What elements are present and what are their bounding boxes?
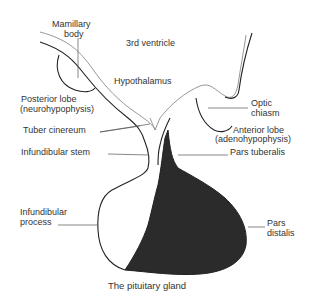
label-optic-chiasm-2: chiasm	[251, 108, 280, 118]
pars-distalis-shape	[125, 130, 246, 275]
label-third-ventricle: 3rd ventricle	[126, 38, 175, 48]
pituitary-gland-diagram: Mamillary body 3rd ventricle Hypothalamu…	[0, 0, 320, 291]
optic-nerve-inner	[225, 33, 252, 98]
label-infundibular-process: Infundibular	[20, 207, 67, 217]
label-pars-tuberalis: Pars tuberalis	[230, 147, 286, 157]
diagram-caption: The pituitary gland	[108, 280, 186, 291]
label-posterior-lobe-2: (neurohypophysis)	[20, 104, 94, 114]
label-posterior-lobe: Posterior lobe	[21, 94, 77, 104]
label-pars-distalis: Pars	[267, 218, 286, 228]
label-optic-chiasm: Optic	[251, 98, 273, 108]
tuber-cinereum-leader-b	[100, 124, 150, 132]
infundibular-stem-leader	[108, 154, 149, 155]
anterior-lobe-outline	[196, 98, 232, 132]
label-infundibular-stem: Infundibular stem	[21, 147, 90, 157]
label-hypothalamus: Hypothalamus	[114, 76, 172, 86]
label-mamillary-body: Mamillary	[52, 19, 91, 29]
label-pars-distalis-2: distalis	[267, 228, 295, 238]
label-tuber-cinereum: Tuber cinereum	[23, 125, 86, 135]
label-anterior-lobe-2: (adenohypophysis)	[215, 134, 291, 144]
mamillary-body-shape	[57, 55, 95, 92]
label-mamillary-body-2: body	[64, 29, 84, 39]
label-infundibular-process-2: process	[20, 217, 52, 227]
